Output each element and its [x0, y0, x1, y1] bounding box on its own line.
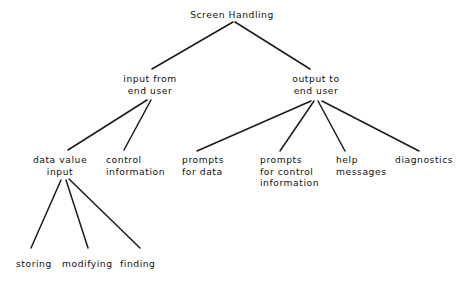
node-prompts-for-control-information: promptsfor controlinformation	[260, 154, 319, 189]
node-label-line: information	[106, 166, 165, 178]
edge-output-to-end-user-to-prompts-for-control-information	[280, 101, 314, 151]
node-modifying: modifying	[62, 258, 113, 270]
node-label-line: data value	[33, 154, 87, 166]
edge-root-to-output-to-end-user	[235, 22, 310, 69]
edge-data-value-input-to-finding	[69, 179, 140, 248]
node-prompts-for-data: promptsfor data	[182, 154, 224, 177]
node-label-line: end user	[123, 85, 176, 97]
node-label-line: modifying	[62, 258, 113, 270]
node-storing: storing	[16, 258, 52, 270]
node-label-line: input	[33, 166, 87, 178]
node-label-line: control	[106, 154, 165, 166]
node-help-messages: helpmessages	[336, 154, 386, 177]
node-label-line: end user	[292, 85, 339, 97]
edge-layer	[0, 0, 467, 283]
node-label-line: help	[336, 154, 386, 166]
node-label-line: prompts	[260, 154, 319, 166]
edge-output-to-end-user-to-diagnostics	[322, 101, 419, 151]
edge-root-to-input-from-end-user	[152, 22, 233, 69]
node-input-from-end-user: input fromend user	[123, 73, 176, 96]
edge-output-to-end-user-to-help-messages	[318, 101, 345, 151]
node-data-value-input: data valueinput	[33, 154, 87, 177]
node-label-line: for data	[182, 166, 224, 178]
node-diagnostics: diagnostics	[395, 154, 453, 166]
edge-input-from-end-user-to-data-value-input	[68, 100, 147, 150]
edge-input-from-end-user-to-control-information	[124, 100, 151, 150]
edge-data-value-input-to-modifying	[66, 180, 88, 248]
node-label-line: information	[260, 177, 319, 189]
node-label-line: finding	[120, 258, 156, 270]
screen-handling-tree-diagram: Screen Handlinginput fromend useroutput …	[0, 0, 467, 283]
node-label-line: for control	[260, 166, 319, 178]
node-label-line: output to	[292, 73, 339, 85]
node-control-information: controlinformation	[106, 154, 165, 177]
edge-output-to-end-user-to-prompts-for-data	[197, 101, 311, 151]
node-output-to-end-user: output toend user	[292, 73, 339, 96]
node-root: Screen Handling	[190, 9, 274, 21]
node-label-line: Screen Handling	[190, 9, 274, 21]
node-label-line: input from	[123, 73, 176, 85]
node-label-line: messages	[336, 166, 386, 178]
edge-data-value-input-to-storing	[31, 180, 61, 248]
node-label-line: prompts	[182, 154, 224, 166]
node-label-line: storing	[16, 258, 52, 270]
node-finding: finding	[120, 258, 156, 270]
node-label-line: diagnostics	[395, 154, 453, 166]
